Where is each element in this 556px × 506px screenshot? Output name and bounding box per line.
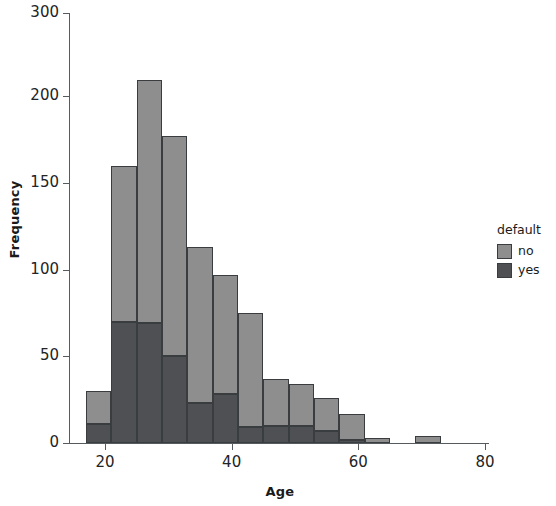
bar-segment-yes (86, 424, 111, 443)
bar-segment-no (213, 275, 238, 395)
legend-swatch-no (497, 244, 512, 259)
x-tick-mark (485, 444, 486, 450)
bar-segment-yes (111, 322, 136, 443)
x-tick-mark (105, 444, 106, 450)
bar-segment-yes (263, 426, 288, 443)
bar-segment-no (187, 247, 212, 403)
bar-segment-yes (289, 426, 314, 443)
bar-segment-yes (162, 356, 187, 443)
y-tick-mark (63, 443, 69, 444)
plot-area (69, 13, 488, 443)
bar-segment-no (289, 384, 314, 426)
y-tick-label: 100 (11, 262, 59, 277)
bar-segment-no (162, 136, 187, 356)
legend-title: default (497, 222, 555, 237)
legend-item-yes[interactable]: yes (497, 263, 555, 278)
bar-segment-no (339, 414, 364, 440)
bar-segment-no (314, 398, 339, 431)
y-tick-label: 50 (11, 348, 59, 363)
bar-segment-yes (213, 394, 238, 443)
y-tick-label: 300 (11, 5, 59, 20)
legend-swatch-yes (497, 263, 512, 278)
legend-label-no: no (518, 245, 534, 258)
bar-segment-no (365, 438, 390, 443)
bar-segment-yes (137, 323, 162, 443)
legend: default no yes (497, 222, 555, 282)
bar-segment-no (111, 166, 136, 322)
legend-item-no[interactable]: no (497, 244, 555, 259)
x-tick-label: 60 (338, 455, 378, 470)
x-tick-label: 40 (212, 455, 252, 470)
x-tick-mark (358, 444, 359, 450)
histogram-figure: Frequency Age 050100150200300 20406080 d… (0, 0, 556, 506)
bar-segment-yes (238, 427, 263, 443)
bar-segment-no (137, 80, 162, 324)
bar-segment-yes (187, 403, 212, 443)
bar-segment-yes (339, 440, 364, 443)
bar-segment-no (263, 379, 288, 426)
x-tick-mark (232, 444, 233, 450)
y-tick-label: 0 (11, 435, 59, 450)
bar-segment-no (86, 391, 111, 424)
x-axis-title: Age (210, 484, 350, 499)
x-axis-line (69, 443, 489, 444)
x-tick-label: 20 (85, 455, 125, 470)
bar-segment-no (238, 313, 263, 427)
bar-segment-no (415, 436, 440, 443)
x-tick-label: 80 (465, 455, 505, 470)
y-tick-label: 200 (11, 88, 59, 103)
legend-label-yes: yes (518, 264, 540, 277)
y-tick-label: 150 (11, 175, 59, 190)
bar-segment-yes (314, 431, 339, 443)
